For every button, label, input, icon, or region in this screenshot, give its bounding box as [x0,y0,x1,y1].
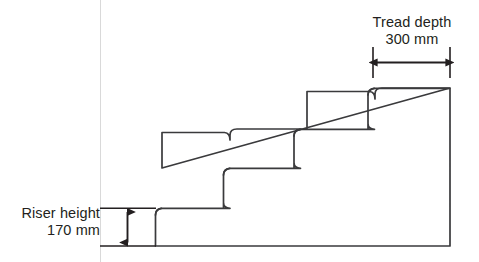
stair-diagram-canvas: Riser height 170 mm Tread depth 300 mm [0,0,479,262]
tread-depth-dimension-label: Tread depth 300 mm [352,14,472,48]
nosing-detail-step-2 [224,168,230,175]
staircase-outline [162,88,450,168]
nosing-detail-step-1 [156,208,162,215]
riser-height-dimension-label: Riser height 170 mm [21,205,100,239]
riser-height-label-line2: 170 mm [21,222,100,239]
riser-height-label-line1: Riser height [21,205,100,221]
tread-depth-label-line2: 300 mm [352,31,472,48]
staircase-profile [156,88,451,246]
tread-depth-label-line1: Tread depth [373,14,452,30]
